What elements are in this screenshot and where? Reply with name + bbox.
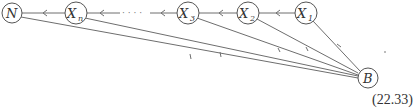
node-n-label: N <box>5 6 18 21</box>
node-xn-sub: n <box>78 14 83 23</box>
stray-dot <box>384 51 386 53</box>
edge-b-to-x1 <box>313 21 360 71</box>
node-xn-label: X <box>66 6 77 21</box>
equation-number: (22.33) <box>372 92 413 108</box>
node-x2-label: X <box>238 6 249 21</box>
node-b-label: B <box>362 71 373 86</box>
node-x2-sub: 2 <box>249 14 255 23</box>
edge-b-to-n <box>21 17 358 78</box>
node-x1-sub: 1 <box>308 14 313 23</box>
node-x3-sub: 3 <box>190 14 195 23</box>
feynman-diagram: · · · · N X n X 3 X 2 X 1 B (22.33) <box>0 0 416 110</box>
node-x3-label: X <box>178 6 189 21</box>
node-x1-label: X <box>296 6 307 21</box>
ellipsis: · · · · <box>122 8 142 18</box>
